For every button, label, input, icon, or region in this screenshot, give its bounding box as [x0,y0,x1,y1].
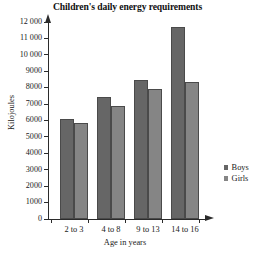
y-axis-tick-label: 10 000 [20,51,42,59]
bar-girls-9-to-13 [148,89,162,220]
legend-label: Girls [232,174,249,183]
x-axis-label-2-to-3: 2 to 3 [54,225,94,234]
x-axis-title: Age in years [49,238,201,247]
x-axis-label-14-to-16: 14 to 16 [165,225,205,234]
bar-girls-2-to-3 [74,123,88,219]
y-axis-tick-label: 1000 [26,198,42,206]
bar-group [171,22,199,219]
bar-girls-4-to-8 [111,106,125,219]
legend-swatch-icon [224,165,228,169]
x-axis-label-4-to-8: 4 to 8 [91,225,131,234]
bar-group [97,22,125,219]
x-axis-tick [162,219,163,223]
x-axis-label-9-to-13: 9 to 13 [128,225,168,234]
legend-item-girls[interactable]: Girls [224,173,249,184]
bar-boys-9-to-13 [134,80,148,219]
legend-item-boys[interactable]: Boys [224,162,249,173]
y-axis-tick-label: 3000 [26,166,42,174]
bar-group [60,22,88,219]
y-axis-tick-label: 11 000 [20,34,42,42]
y-axis-tick-label: 12 000 [20,18,42,26]
y-axis-title: Kilojoules [7,78,16,148]
y-axis-tick-label: 5000 [26,133,42,141]
x-axis-tick [199,219,200,223]
y-axis-tick-label: 4000 [26,149,42,157]
y-axis-tick-label: 7000 [26,100,42,108]
legend-swatch-icon [224,176,228,180]
bar-boys-2-to-3 [60,119,74,219]
x-axis-arrow-icon [205,215,214,221]
x-axis-tick [88,219,89,223]
y-axis-tick-label: 6000 [26,116,42,124]
chart-legend: BoysGirls [224,162,249,184]
bar-group [134,22,162,219]
bar-chart: Children's daily energy requirements 010… [0,0,263,254]
y-axis-tick-label: 8000 [26,83,42,91]
plot-area [49,22,194,219]
chart-title: Children's daily energy requirements [0,1,255,12]
x-axis-tick [51,219,52,223]
legend-label: Boys [232,163,249,172]
bar-boys-4-to-8 [97,97,111,219]
bar-boys-14-to-16 [171,27,185,219]
y-axis-tick-label: 0 [38,215,42,223]
x-axis-tick [125,219,126,223]
y-axis-tick-label: 9000 [26,67,42,75]
y-axis-tick-label: 2000 [26,182,42,190]
bar-girls-14-to-16 [185,82,199,219]
